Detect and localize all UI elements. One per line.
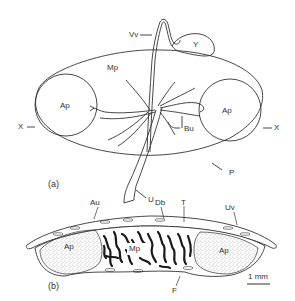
label-ap-left-b: Ap (64, 243, 74, 251)
label-ap-right-a: Ap (222, 107, 232, 115)
label-x-left: X (18, 123, 23, 131)
right-vessels (158, 82, 204, 135)
left-ap-section (40, 230, 102, 274)
vitelline-vessel (147, 19, 180, 152)
figure-drawing (0, 0, 295, 301)
panel-b-label: (b) (48, 282, 59, 291)
label-p: P (229, 169, 234, 177)
label-u: U (148, 196, 154, 204)
panel-a-label: (a) (48, 180, 59, 189)
label-au: Au (90, 199, 100, 207)
placenta-figure: Vv Y Mp Ap Ap X X Bu U P (a) Au Db T Uv … (0, 0, 295, 301)
label-x-right: X (274, 124, 279, 132)
left-vessels (90, 80, 155, 146)
label-bu: Bu (184, 125, 194, 133)
panel-a-drawing (27, 19, 272, 203)
label-f: F (172, 287, 177, 295)
label-mp-a: Mp (107, 64, 118, 72)
umbilical-cord (124, 110, 156, 203)
label-ap-right-b: Ap (219, 247, 229, 255)
label-db: Db (155, 199, 165, 207)
label-uv: Uv (225, 204, 235, 212)
scale-bar-label: 1 mm (248, 273, 268, 281)
label-mp-b: Mp (129, 245, 140, 253)
label-vv: Vv (129, 31, 138, 39)
label-y: Y (193, 41, 198, 49)
label-t: T (181, 199, 186, 207)
label-ap-left-a: Ap (60, 102, 70, 110)
